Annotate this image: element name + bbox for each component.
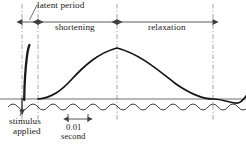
relaxation-label: relaxation: [148, 23, 186, 33]
stimulus-applied-label-line2: applied: [13, 127, 41, 137]
muscle-twitch-myogram-figure: latent period shortening relaxation stim…: [0, 0, 246, 144]
timebase-unit-label: second: [61, 132, 85, 141]
stimulus-spike: [24, 45, 29, 100]
latent-period-label: latent period: [37, 1, 84, 11]
timing-wave: [8, 104, 246, 110]
latent-period-leader-line: [30, 5, 38, 20]
shortening-label: shortening: [55, 23, 95, 33]
timebase-span: [68, 114, 88, 122]
twitch-curve: [38, 48, 246, 103]
